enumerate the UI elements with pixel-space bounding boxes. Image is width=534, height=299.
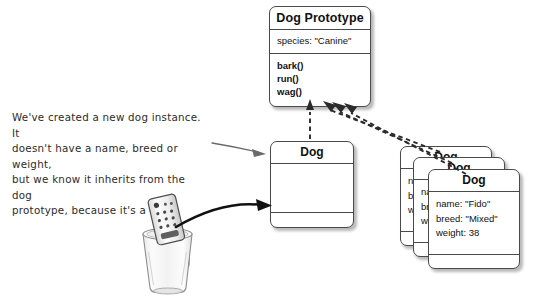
new-dog-instance-box: Dog bbox=[270, 141, 354, 228]
dog-instance-fido-box: Dog name: "Fido" breed: "Mixed" weight: … bbox=[428, 169, 520, 269]
fido-property-weight: weight: 38 bbox=[436, 226, 512, 241]
prototype-property: species: "Canine" bbox=[277, 34, 363, 47]
dog-prototype-methods: bark() run() wag() bbox=[270, 54, 370, 106]
dog-prototype-title: Dog Prototype bbox=[270, 7, 370, 30]
fido-properties: name: "Fido" breed: "Mixed" weight: 38 bbox=[429, 192, 519, 255]
new-dog-instance-title: Dog bbox=[271, 142, 353, 164]
fido-methods bbox=[429, 255, 519, 269]
prototype-method: run() bbox=[277, 72, 363, 85]
annotation-pointer-arrow bbox=[212, 143, 266, 157]
diagram-canvas: Dog Prototype species: "Canine" bark() r… bbox=[0, 0, 534, 299]
annotation-line-2: doesn't have a name, breed or weight, bbox=[12, 141, 208, 172]
prototype-method: bark() bbox=[277, 59, 363, 72]
cup-label: aDog bbox=[152, 253, 191, 268]
handwritten-annotation: We've created a new dog instance. It doe… bbox=[12, 110, 208, 219]
fido-property-breed: breed: "Mixed" bbox=[436, 212, 512, 227]
new-dog-instance-properties bbox=[271, 164, 353, 213]
annotation-line-3: but we know it inherits from the dog bbox=[12, 172, 208, 203]
dog-prototype-properties: species: "Canine" bbox=[270, 30, 370, 54]
annotation-line-1: We've created a new dog instance. It bbox=[12, 110, 208, 141]
new-dog-instance-methods bbox=[271, 213, 353, 228]
fido-title: Dog bbox=[429, 170, 519, 192]
prototype-method: wag() bbox=[277, 85, 363, 98]
annotation-line-4: prototype, because it's a dog. bbox=[12, 203, 208, 219]
fido-property-name: name: "Fido" bbox=[436, 197, 512, 212]
dog-prototype-box: Dog Prototype species: "Canine" bark() r… bbox=[269, 6, 371, 107]
